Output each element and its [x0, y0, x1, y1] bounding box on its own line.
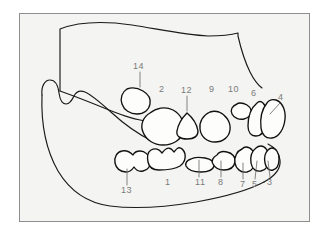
tooth-shapes — [115, 88, 285, 172]
label-7: 7 — [240, 180, 246, 189]
label-9: 9 — [209, 85, 215, 94]
label-13: 13 — [121, 186, 132, 195]
tooth-shape-13 — [115, 151, 150, 172]
label-1: 1 — [165, 178, 171, 187]
label-4: 4 — [278, 93, 284, 102]
label-8: 8 — [218, 178, 224, 187]
figure-root: 1421291064131118753 — [0, 0, 329, 236]
label-3: 3 — [267, 178, 273, 187]
tooth-shape-3 — [265, 148, 279, 170]
tooth-shape-1 — [148, 148, 186, 170]
label-5: 5 — [252, 180, 258, 189]
label-10: 10 — [228, 85, 239, 94]
tooth-shape-9 — [200, 111, 230, 142]
label-12: 12 — [181, 86, 192, 95]
label-14: 14 — [133, 62, 144, 71]
upper-jaw-outline — [60, 23, 262, 91]
tooth-shape-8 — [212, 152, 235, 170]
jaw-diagram-drawing — [0, 0, 329, 236]
tooth-shape-14 — [121, 88, 150, 114]
label-2: 2 — [159, 85, 165, 94]
tooth-shape-11 — [186, 157, 214, 172]
tooth-shape-2 — [142, 108, 184, 145]
label-6: 6 — [251, 89, 257, 98]
label-11: 11 — [195, 178, 206, 187]
tooth-shape-10 — [231, 103, 251, 119]
